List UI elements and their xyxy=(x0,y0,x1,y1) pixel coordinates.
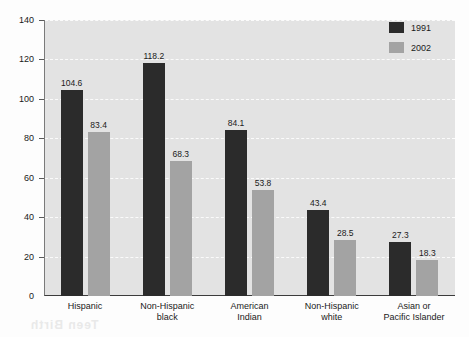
bar-value-label: 43.4 xyxy=(299,198,337,208)
gridline xyxy=(45,20,455,21)
bar xyxy=(88,132,110,296)
bar xyxy=(252,190,274,296)
bar-value-label: 68.3 xyxy=(162,149,200,159)
y-axis-tick-label: 40 xyxy=(6,212,34,222)
category-label-line: Non-Hispanic xyxy=(291,301,373,312)
y-axis-tick-label: 0 xyxy=(6,291,34,301)
x-axis-category-label: Non-Hispanicwhite xyxy=(291,301,373,323)
x-axis-category-label: Non-Hispanicblack xyxy=(126,301,208,323)
category-label-line: American xyxy=(208,301,290,312)
bar xyxy=(416,260,438,296)
chart-legend: 19912002 xyxy=(389,22,431,62)
category-label-line: Pacific Islander xyxy=(373,312,455,323)
legend-swatch xyxy=(389,42,404,53)
bar-value-label: 84.1 xyxy=(217,118,255,128)
bar xyxy=(307,210,329,296)
bar xyxy=(170,161,192,296)
legend-swatch xyxy=(389,22,404,33)
gridline xyxy=(45,99,455,100)
bar-value-label: 18.3 xyxy=(408,248,446,258)
bar xyxy=(334,240,356,296)
category-label-line: white xyxy=(291,312,373,323)
y-axis-tick-label: 140 xyxy=(6,15,34,25)
y-axis-tick-label: 120 xyxy=(6,54,34,64)
bar xyxy=(225,130,247,296)
bar-value-label: 83.4 xyxy=(80,120,118,130)
y-axis-tick-label: 60 xyxy=(6,173,34,183)
bar-value-label: 118.2 xyxy=(135,51,173,61)
category-label-line: Non-Hispanic xyxy=(126,301,208,312)
bar xyxy=(143,63,165,296)
scan-bleed-through-bottom: Teen Birth xyxy=(30,318,98,332)
category-label-line: black xyxy=(126,312,208,323)
x-axis-category-label: Asian orPacific Islander xyxy=(373,301,455,323)
y-axis-tick-label: 100 xyxy=(6,94,34,104)
category-label-line: Hispanic xyxy=(44,301,126,312)
legend-label: 2002 xyxy=(411,43,431,53)
bar-value-label: 53.8 xyxy=(244,178,282,188)
bar-value-label: 104.6 xyxy=(53,78,91,88)
bar-value-label: 27.3 xyxy=(381,230,419,240)
chart-screenshot: Adolescent Births Teen Birth 02040608010… xyxy=(0,0,469,337)
legend-item: 2002 xyxy=(389,42,431,53)
x-axis-category-label: AmericanIndian xyxy=(208,301,290,323)
category-label-line: Indian xyxy=(208,312,290,323)
y-axis-tick-label: 80 xyxy=(6,133,34,143)
bar-value-label: 28.5 xyxy=(326,228,364,238)
legend-label: 1991 xyxy=(411,23,431,33)
category-label-line: Asian or xyxy=(373,301,455,312)
x-axis-category-label: Hispanic xyxy=(44,301,126,312)
legend-item: 1991 xyxy=(389,22,431,33)
y-axis-tick-label: 20 xyxy=(6,252,34,262)
